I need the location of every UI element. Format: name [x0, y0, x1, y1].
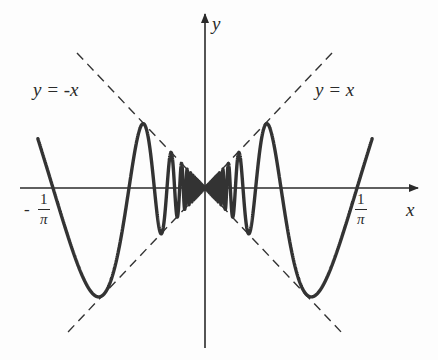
label-y-equals-x: y = x — [315, 80, 354, 99]
tick-label-neg-1-over-pi: 1 π — [38, 192, 50, 227]
tick-numerator: 1 — [355, 192, 367, 210]
chart-figure: y x y = -x y = x - 1 π 1 π — [0, 0, 438, 360]
tick-neg-sign: - — [24, 200, 30, 220]
tick-numerator: 1 — [38, 192, 50, 210]
plot-area — [0, 0, 438, 360]
tick-label-1-over-pi: 1 π — [355, 192, 367, 227]
tick-denominator: π — [38, 210, 50, 227]
y-axis-label: y — [212, 14, 220, 33]
tick-denominator: π — [355, 210, 367, 227]
label-y-equals-neg-x: y = -x — [33, 80, 79, 99]
x-axis-label: x — [406, 200, 414, 219]
